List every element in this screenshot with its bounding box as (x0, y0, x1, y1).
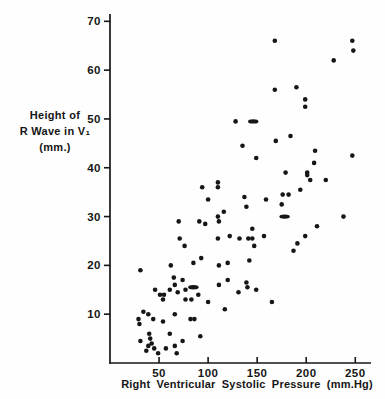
data-point (350, 153, 355, 158)
data-point (146, 344, 151, 349)
data-point (168, 331, 173, 336)
data-point (183, 297, 188, 302)
y-axis-title-line1: Height of (4, 107, 106, 123)
data-point (341, 214, 346, 219)
data-point (217, 219, 222, 224)
data-point (196, 292, 201, 297)
data-point (351, 48, 356, 53)
data-point (254, 288, 259, 293)
data-point (148, 336, 153, 341)
scatter-figure: 1020304050607050100150200250 Height of R… (0, 0, 385, 399)
data-point (242, 195, 247, 200)
data-point (180, 278, 185, 283)
data-point (137, 322, 142, 327)
data-point (288, 134, 293, 139)
data-point (240, 144, 245, 149)
data-point (174, 351, 179, 356)
data-point (303, 104, 308, 109)
data-point (247, 258, 252, 263)
data-point-merged-dash (188, 285, 198, 289)
data-point (280, 192, 285, 197)
data-point (182, 244, 187, 249)
y-tick-label: 20 (87, 259, 101, 271)
data-point (283, 170, 288, 175)
data-point (158, 292, 163, 297)
data-point (173, 312, 178, 317)
data-point (279, 202, 284, 207)
data-point (273, 87, 278, 92)
data-point (161, 319, 166, 324)
data-point (173, 344, 178, 349)
data-point (250, 236, 255, 241)
data-point (274, 139, 279, 144)
data-point (227, 234, 232, 239)
data-point (151, 317, 156, 322)
data-point (164, 346, 169, 351)
data-point (147, 331, 152, 336)
data-point (206, 300, 211, 305)
data-point (331, 58, 336, 63)
data-point (264, 197, 269, 202)
data-point (203, 222, 208, 227)
data-point (217, 263, 222, 268)
data-point (169, 263, 174, 268)
data-point (225, 261, 230, 266)
data-point (180, 339, 185, 344)
data-point (198, 334, 203, 339)
data-point (262, 234, 267, 239)
data-point (138, 268, 143, 273)
data-point (303, 97, 308, 102)
data-point (270, 300, 275, 305)
data-point (233, 119, 238, 124)
data-point (216, 236, 221, 241)
data-point (294, 85, 299, 90)
data-point (168, 288, 173, 293)
data-point (189, 297, 194, 302)
data-point (252, 244, 257, 249)
data-point (141, 309, 146, 314)
data-point (173, 283, 178, 288)
data-point (303, 234, 308, 239)
data-point (313, 148, 318, 153)
data-point (298, 187, 303, 192)
data-point (138, 339, 143, 344)
data-point (222, 209, 227, 214)
data-point (236, 290, 241, 295)
data-point (183, 288, 188, 293)
data-point (246, 236, 251, 241)
data-point (200, 185, 205, 190)
data-point (176, 219, 181, 224)
data-point (146, 312, 151, 317)
y-tick-label: 10 (87, 308, 101, 320)
data-point (315, 224, 320, 229)
data-point (177, 236, 182, 241)
y-tick-label: 70 (87, 15, 101, 27)
data-point (324, 178, 329, 183)
data-point (161, 297, 166, 302)
y-axis-title-line2: R Wave in V₁ (mm.) (4, 123, 106, 155)
data-point (152, 346, 157, 351)
data-point (312, 161, 317, 166)
y-tick-label: 60 (87, 64, 101, 76)
data-point-merged-dash (248, 119, 258, 123)
y-tick-label: 40 (87, 162, 101, 174)
data-point (286, 192, 291, 197)
data-point (244, 205, 249, 210)
data-point (245, 285, 250, 290)
data-point (197, 219, 202, 224)
data-point (199, 256, 204, 261)
data-point (216, 185, 221, 190)
data-point (191, 261, 196, 266)
data-point (216, 214, 221, 219)
data-point (156, 351, 161, 356)
x-axis-title: Right Ventricular Systolic Pressure (mm.… (112, 378, 382, 390)
data-point (172, 275, 177, 280)
data-point (244, 280, 249, 285)
data-point (216, 180, 221, 185)
data-point (144, 349, 149, 354)
data-point (192, 317, 197, 322)
y-axis-title: Height of R Wave in V₁ (mm.) (4, 107, 106, 155)
data-point (206, 197, 211, 202)
data-point (308, 178, 313, 183)
data-point (273, 39, 278, 44)
